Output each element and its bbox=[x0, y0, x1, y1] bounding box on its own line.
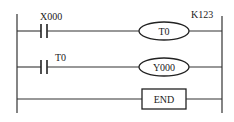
contact-label-t0: T0 bbox=[55, 52, 66, 63]
coil-parameter-k123: K123 bbox=[191, 9, 213, 20]
contact-x000-icon bbox=[41, 24, 47, 38]
rung-3: END bbox=[17, 89, 222, 109]
coil-label-t0: T0 bbox=[158, 26, 169, 37]
rung-1: X000 T0 K123 bbox=[17, 9, 222, 40]
contact-label-x000: X000 bbox=[40, 11, 62, 22]
end-instruction-label: END bbox=[154, 94, 175, 105]
ladder-diagram: X000 T0 K123 T0 Y000 END bbox=[0, 0, 234, 122]
contact-t0-icon bbox=[41, 60, 47, 74]
coil-label-y000: Y000 bbox=[153, 62, 175, 73]
rung-2: T0 Y000 bbox=[17, 52, 222, 76]
